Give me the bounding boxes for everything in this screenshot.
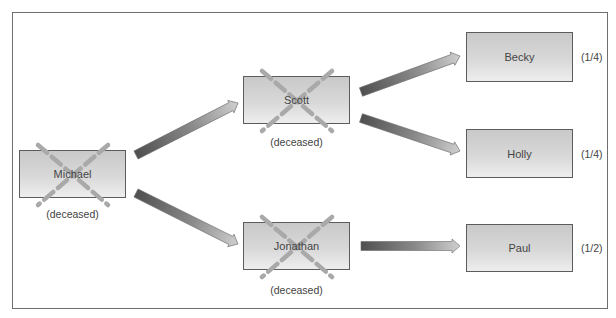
node-caption: (deceased) [243, 136, 350, 148]
node-paul: Paul [466, 224, 573, 272]
arrow-scott-to-becky [359, 49, 463, 98]
inheritance-share: (1/2) [581, 242, 603, 254]
node-scott: Scott [243, 76, 350, 124]
node-name: Scott [284, 94, 309, 106]
node-name: Jonathan [274, 240, 319, 252]
arrow-michael-to-jonathan [133, 187, 241, 251]
node-michael: Michael [19, 150, 126, 198]
inheritance-share: (1/4) [581, 51, 603, 63]
arrow-michael-to-scott [133, 97, 241, 161]
inheritance-share: (1/4) [581, 148, 603, 160]
node-becky: Becky [466, 32, 573, 82]
node-caption: (deceased) [19, 208, 126, 220]
node-name: Becky [505, 51, 535, 63]
node-name: Holly [507, 148, 531, 160]
node-jonathan: Jonathan [243, 222, 350, 270]
node-holly: Holly [466, 129, 573, 178]
node-name: Paul [508, 242, 530, 254]
node-name: Michael [54, 168, 92, 180]
arrow-jonathan-to-paul [361, 239, 460, 253]
arrow-scott-to-holly [359, 111, 462, 157]
node-caption: (deceased) [243, 284, 350, 296]
